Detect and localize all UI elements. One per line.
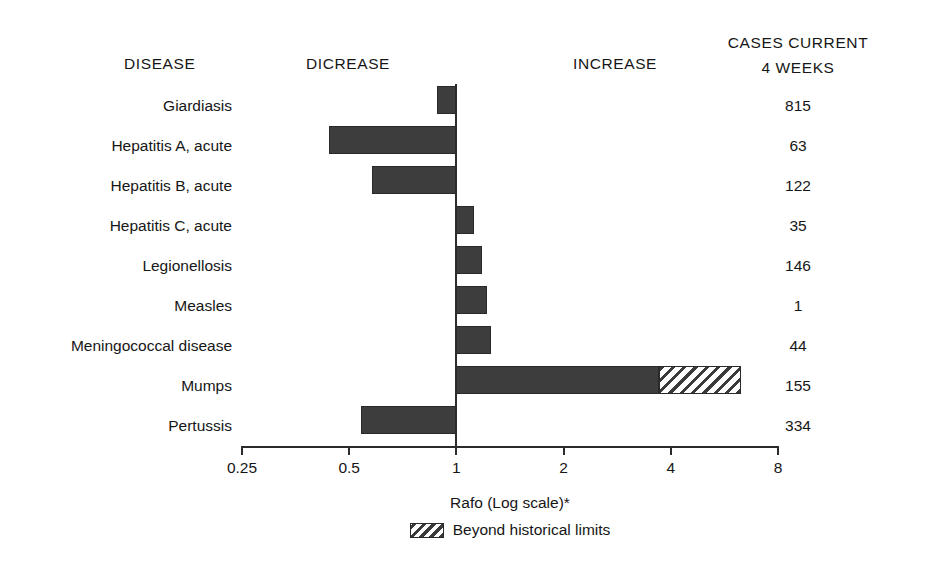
cases-count-value: 334 xyxy=(718,406,878,446)
cases-count-value: 155 xyxy=(718,366,878,406)
column-header-cases-line1: CASES CURRENT xyxy=(718,30,878,55)
cases-count-value: 1 xyxy=(718,286,878,326)
bar-segment-solid xyxy=(361,406,456,434)
cases-count-value: 815 xyxy=(718,86,878,126)
bar-row xyxy=(242,406,778,446)
disease-label-text: Hepatitis C, acute xyxy=(2,206,232,246)
bar-segment-solid xyxy=(456,286,487,314)
bar-segment-solid xyxy=(329,126,456,154)
x-axis-tick xyxy=(348,446,350,455)
disease-label: Legionellosis xyxy=(2,246,232,286)
bars-plot-area xyxy=(242,86,778,446)
x-axis-tick-label: 1 xyxy=(452,459,461,477)
x-axis-tick xyxy=(670,446,672,455)
cases-count-column: 8156312235146144155334 xyxy=(718,86,878,446)
cases-count-value: 146 xyxy=(718,246,878,286)
cases-count-value: 122 xyxy=(718,166,878,206)
disease-label: Hepatitis A, acute xyxy=(2,126,232,166)
bar-row xyxy=(242,326,778,366)
notifiable-disease-ratio-chart: DISEASE DICREASE INCREASE CASES CURRENT … xyxy=(0,0,930,568)
x-axis-tick-label: 0.5 xyxy=(338,459,360,477)
bar-row xyxy=(242,286,778,326)
bar-row xyxy=(242,206,778,246)
disease-label: Hepatitis B, acute xyxy=(2,166,232,206)
column-header-decrease: DICREASE xyxy=(306,55,390,73)
disease-label-text: Mumps xyxy=(2,366,232,406)
bar-segment-solid xyxy=(456,206,474,234)
disease-label-text: Legionellosis xyxy=(2,246,232,286)
column-header-cases-line2: 4 WEEKS xyxy=(718,55,878,80)
diagonal-hatch-swatch-icon xyxy=(410,523,444,538)
x-axis: 0.250.51248 xyxy=(242,446,778,448)
cases-count-value: 44 xyxy=(718,326,878,366)
bar-segment-solid xyxy=(372,166,456,194)
baseline-ratio-one xyxy=(455,84,457,448)
disease-label: Pertussis xyxy=(2,406,232,446)
bar-row xyxy=(242,246,778,286)
bar-segment-solid xyxy=(437,86,457,114)
x-axis-tick xyxy=(455,446,457,455)
x-axis-tick-label: 2 xyxy=(559,459,568,477)
x-axis-tick-label: 8 xyxy=(774,459,783,477)
x-axis-tick xyxy=(241,446,243,455)
column-header-increase: INCREASE xyxy=(573,55,657,73)
disease-label-column: GiardiasisHepatitis A, acuteHepatitis B,… xyxy=(2,86,232,446)
disease-label-text: Measles xyxy=(2,286,232,326)
x-axis-tick xyxy=(777,446,779,455)
x-axis-tick-label: 4 xyxy=(666,459,675,477)
cases-count-value: 63 xyxy=(718,126,878,166)
disease-label-text: Meningococcal disease xyxy=(2,326,232,366)
disease-label-text: Giardiasis xyxy=(2,86,232,126)
column-header-cases-current-4-weeks: CASES CURRENT 4 WEEKS xyxy=(718,30,878,80)
disease-label: Hepatitis C, acute xyxy=(2,206,232,246)
disease-label-text: Pertussis xyxy=(2,406,232,446)
disease-label: Measles xyxy=(2,286,232,326)
x-axis-tick-label: 0.25 xyxy=(227,459,257,477)
disease-label: Meningococcal disease xyxy=(2,326,232,366)
disease-label-text: Hepatitis B, acute xyxy=(2,166,232,206)
x-axis-title: Rafo (Log scale)* xyxy=(242,494,778,512)
x-axis-tick xyxy=(563,446,565,455)
disease-label-text: Hepatitis A, acute xyxy=(2,126,232,166)
column-header-disease: DISEASE xyxy=(124,55,195,73)
bar-segment-solid xyxy=(456,326,491,354)
bar-row xyxy=(242,366,778,406)
disease-label: Giardiasis xyxy=(2,86,232,126)
bar-row xyxy=(242,126,778,166)
bar-row xyxy=(242,86,778,126)
bar-segment-solid xyxy=(456,366,658,394)
bar-row xyxy=(242,166,778,206)
cases-count-value: 35 xyxy=(718,206,878,246)
bar-segment-solid xyxy=(456,246,482,274)
disease-label: Mumps xyxy=(2,366,232,406)
chart-legend: Beyond historical limits xyxy=(242,521,778,539)
legend-label-beyond-historical-limits: Beyond historical limits xyxy=(453,521,611,539)
